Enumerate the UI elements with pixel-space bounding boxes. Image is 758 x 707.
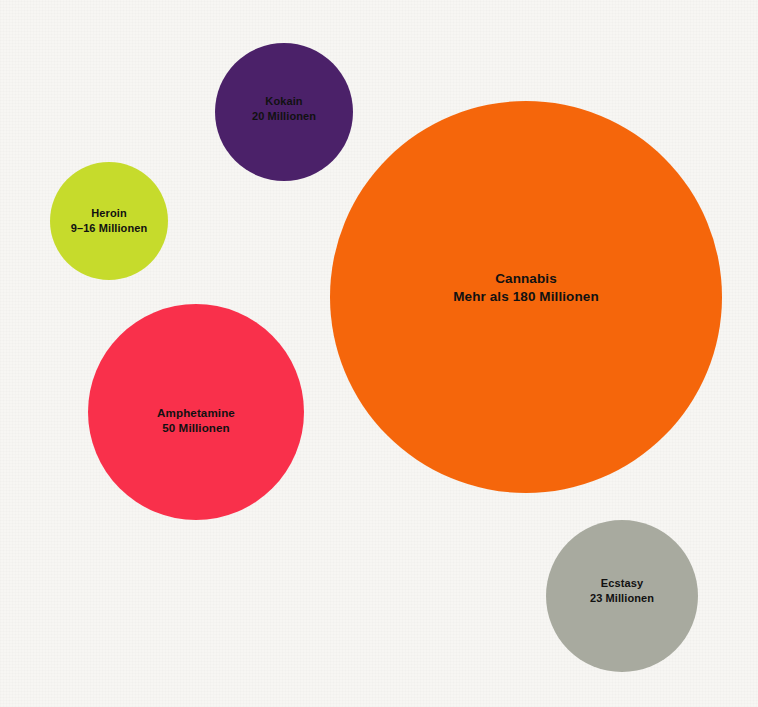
bubble-cannabis[interactable]: Cannabis Mehr als 180 Millionen bbox=[330, 101, 722, 493]
bubble-name-amphetamine: Amphetamine bbox=[157, 405, 235, 420]
bubble-amphetamine[interactable]: Amphetamine 50 Millionen bbox=[88, 304, 304, 520]
bubble-heroin[interactable]: Heroin 9–16 Millionen bbox=[50, 162, 168, 280]
bubble-value-ecstasy: 23 Millionen bbox=[590, 591, 654, 606]
bubble-value-cannabis: Mehr als 180 Millionen bbox=[453, 288, 599, 306]
bubble-name-kokain: Kokain bbox=[252, 94, 316, 109]
bubble-value-amphetamine: 50 Millionen bbox=[157, 420, 235, 435]
bubble-chart-canvas: Heroin 9–16 Millionen Kokain 20 Millione… bbox=[0, 0, 758, 707]
bubble-ecstasy[interactable]: Ecstasy 23 Millionen bbox=[546, 520, 698, 672]
bubble-name-heroin: Heroin bbox=[71, 206, 148, 221]
bubble-value-kokain: 20 Millionen bbox=[252, 109, 316, 124]
bubble-name-cannabis: Cannabis bbox=[453, 270, 599, 288]
bubble-kokain[interactable]: Kokain 20 Millionen bbox=[215, 43, 353, 181]
bubble-value-heroin: 9–16 Millionen bbox=[71, 221, 148, 236]
bubble-label-heroin: Heroin 9–16 Millionen bbox=[71, 206, 148, 235]
bubble-label-cannabis: Cannabis Mehr als 180 Millionen bbox=[453, 270, 599, 306]
bubble-label-kokain: Kokain 20 Millionen bbox=[252, 94, 316, 123]
bubble-label-ecstasy: Ecstasy 23 Millionen bbox=[590, 576, 654, 605]
bubble-name-ecstasy: Ecstasy bbox=[590, 576, 654, 591]
bubble-label-amphetamine: Amphetamine 50 Millionen bbox=[157, 405, 235, 436]
